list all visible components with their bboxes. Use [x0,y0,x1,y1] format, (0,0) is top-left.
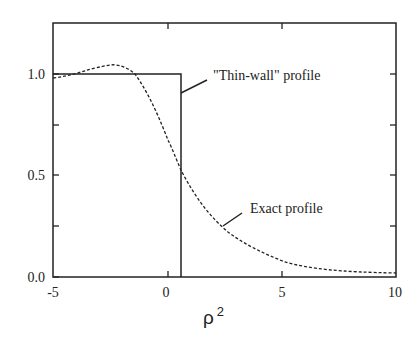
y-ticks [53,74,396,277]
y-tick-label-0.5: 0.5 [28,168,46,183]
chart: 0.0 0.5 1.0 -5 0 5 10 ρ2 "Thin-wall" pro… [0,0,420,339]
exact-annotation: Exact profile [250,201,323,216]
plot-frame [53,23,396,277]
x-tick-label-5: 5 [279,285,286,300]
exact-profile-line [53,65,396,273]
y-tick-label-0: 0.0 [28,270,46,285]
thin-wall-profile-line [53,74,181,277]
y-tick-label-1.0: 1.0 [28,67,46,82]
x-tick-label-10: 10 [388,285,402,300]
thin-wall-leader [181,80,207,93]
x-ticks [168,23,282,277]
thin-wall-annotation: "Thin-wall" profile [213,68,320,83]
exact-leader [223,213,242,226]
x-tick-label-0: 0 [163,285,170,300]
x-tick-label--5: -5 [47,285,59,300]
x-axis-title: ρ2 [203,304,224,328]
